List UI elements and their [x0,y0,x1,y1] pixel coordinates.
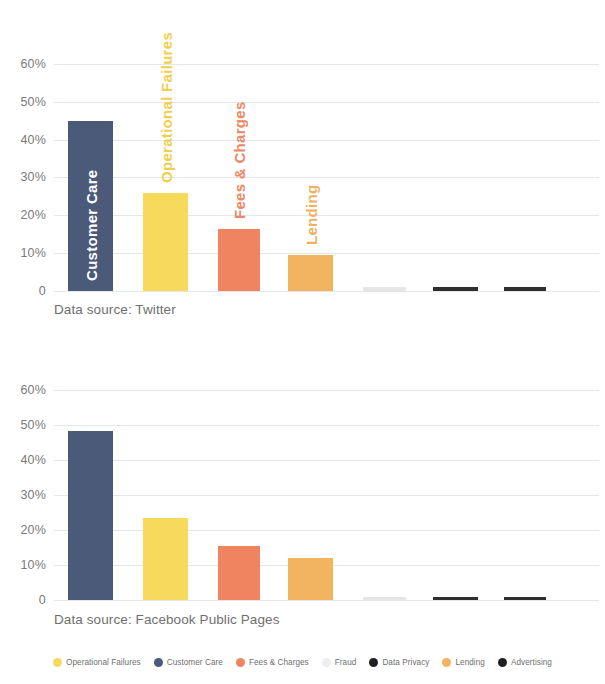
y-axis-tick-label: 20% [0,524,46,537]
legend-item-fraud[interactable]: Fraud [322,658,357,667]
legend-swatch-icon [236,658,245,667]
bar-label: Lending [302,185,319,245]
bar-label: Fees & Charges [231,101,248,219]
y-axis-tick-label: 40% [0,454,46,467]
legend-item-lending[interactable]: Lending [442,658,485,667]
y-axis-tick-label: 10% [0,247,46,260]
gridline [54,291,599,292]
legend-item-data-privacy[interactable]: Data Privacy [369,658,429,667]
source-label-twitter: Data source: Twitter [54,302,176,317]
y-axis-tick-label: 50% [0,96,46,109]
bar-lending[interactable] [288,558,333,600]
source-label-facebook: Data source: Facebook Public Pages [54,612,280,627]
bar-fraud[interactable] [363,597,406,600]
y-axis-tick-label: 30% [0,171,46,184]
bar-fraud[interactable] [363,287,406,291]
chart-facebook: 60%50%40%30%20%10%0 Data source: Faceboo… [0,340,605,640]
legend-swatch-icon [154,658,163,667]
y-axis-tick-label: 60% [0,384,46,397]
legend-label: Operational Failures [66,658,141,667]
y-axis-tick-label: 20% [0,209,46,222]
bar-advertising[interactable] [504,287,546,291]
y-axis-tick-label: 40% [0,133,46,146]
bar-advertising[interactable] [504,597,546,600]
legend-label: Fees & Charges [249,658,309,667]
bar-label: Operational Failures [157,32,174,183]
y-axis-twitter: 60%50%40%30%20%10%0 [0,45,46,291]
plot-area-facebook [54,373,599,600]
legend-label: Lending [455,658,485,667]
y-axis-tick-label: 10% [0,559,46,572]
legend-item-operational-failures[interactable]: Operational Failures [53,658,141,667]
y-axis-tick-label: 0 [0,285,46,298]
legend-swatch-icon [322,658,331,667]
legend-item-advertising[interactable]: Advertising [498,658,552,667]
legend-item-customer-care[interactable]: Customer Care [154,658,223,667]
chart-legend: Operational FailuresCustomer CareFees & … [0,658,605,667]
plot-area-twitter: Customer CareOperational FailuresFees & … [54,45,599,291]
y-axis-facebook: 60%50%40%30%20%10%0 [0,373,46,600]
bar-fees-charges[interactable] [218,546,260,600]
legend-swatch-icon [53,658,62,667]
bars-twitter: Customer CareOperational FailuresFees & … [54,45,599,291]
bar-fees-charges[interactable]: Fees & Charges [218,229,260,291]
legend-swatch-icon [442,658,451,667]
bar-data-privacy[interactable] [433,597,478,600]
bar-operational-failures[interactable]: Operational Failures [143,193,188,291]
chart-page: 60%50%40%30%20%10%0 Customer CareOperati… [0,0,605,684]
bars-facebook [54,373,599,600]
gridline [54,600,599,601]
legend-item-fees-charges[interactable]: Fees & Charges [236,658,309,667]
bar-label: Customer Care [82,170,99,281]
bar-operational-failures[interactable] [143,518,188,600]
bar-customer-care[interactable] [68,431,113,600]
legend-swatch-icon [369,658,378,667]
legend-label: Data Privacy [382,658,429,667]
legend-label: Customer Care [167,658,223,667]
bar-customer-care[interactable]: Customer Care [68,121,113,291]
legend-label: Advertising [511,658,552,667]
y-axis-tick-label: 30% [0,489,46,502]
y-axis-tick-label: 0 [0,594,46,607]
chart-twitter: 60%50%40%30%20%10%0 Customer CareOperati… [0,0,605,330]
legend-swatch-icon [498,658,507,667]
y-axis-tick-label: 60% [0,58,46,71]
y-axis-tick-label: 50% [0,419,46,432]
bar-data-privacy[interactable] [433,287,478,291]
legend-label: Fraud [335,658,357,667]
bar-lending[interactable]: Lending [288,255,333,291]
